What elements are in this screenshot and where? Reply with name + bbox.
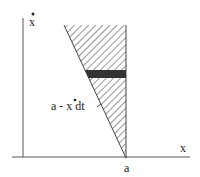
strip-label: a - x dt [51, 99, 85, 113]
phase-diagram: x x a a - x dt [0, 0, 200, 177]
x-axis-label: x [180, 141, 186, 155]
strip-label-before: a - [51, 99, 66, 113]
svg-text:a - x dt: a - x dt [51, 99, 85, 113]
hatched-region [64, 25, 126, 158]
leader-line [97, 104, 101, 107]
apex-label: a [124, 161, 130, 175]
strip-label-dot-accent [74, 99, 77, 102]
strip-label-after: dt [72, 99, 85, 113]
dark-strip [64, 70, 126, 78]
y-axis-label: x [29, 15, 35, 29]
